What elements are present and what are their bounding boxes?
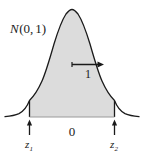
right-bound-label: z2 bbox=[109, 138, 119, 153]
center-axis-label: 0 bbox=[69, 124, 76, 139]
distribution-label-paren-close: ) bbox=[42, 21, 46, 36]
stddev-arrow-label: 1 bbox=[85, 67, 91, 81]
normal-distribution-figure: N(0,1) 1 0 z1 z2 bbox=[0, 0, 144, 153]
right-bound-subscript: 2 bbox=[115, 145, 119, 153]
distribution-chart-svg: N(0,1) 1 0 z1 z2 bbox=[0, 0, 144, 153]
right-tick-marker bbox=[112, 120, 117, 136]
distribution-label-comma: , bbox=[30, 21, 33, 36]
left-bound-subscript: 1 bbox=[30, 145, 34, 153]
left-tick-marker bbox=[27, 120, 32, 136]
left-bound-label: z1 bbox=[24, 138, 33, 153]
distribution-label: N(0,1) bbox=[9, 21, 46, 36]
